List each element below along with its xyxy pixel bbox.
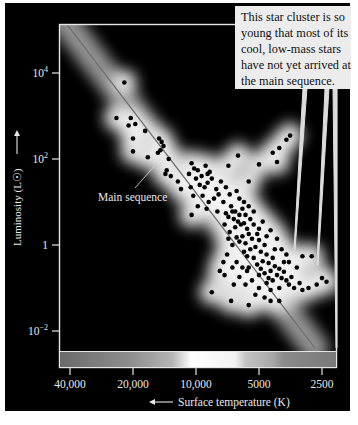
star-point xyxy=(300,254,305,259)
callout-line: cool, low-mass stars xyxy=(241,41,346,57)
star-point xyxy=(246,204,251,209)
star-point xyxy=(229,299,234,304)
star-point xyxy=(259,267,264,272)
star-point xyxy=(264,234,269,239)
star-point xyxy=(221,200,226,205)
star-point xyxy=(234,189,239,194)
star-point xyxy=(214,187,219,192)
star-point xyxy=(268,228,273,233)
star-point xyxy=(206,200,211,205)
star-point xyxy=(273,247,278,252)
star-point xyxy=(204,206,209,211)
star-point xyxy=(275,160,280,165)
star-point xyxy=(266,276,271,281)
star-point xyxy=(270,150,275,155)
star-point xyxy=(179,187,184,192)
star-point xyxy=(240,234,245,239)
main-sequence-label: Main sequence xyxy=(98,191,167,204)
star-point xyxy=(257,226,262,231)
star-point xyxy=(161,144,166,149)
star-point xyxy=(292,286,297,291)
star-point xyxy=(240,265,245,270)
star-point xyxy=(143,129,148,134)
star-point xyxy=(191,193,196,198)
star-point xyxy=(242,249,247,254)
star-point xyxy=(324,279,329,284)
star-point xyxy=(205,181,210,186)
star-point xyxy=(234,260,239,265)
star-point xyxy=(205,172,210,177)
star-point xyxy=(250,278,255,283)
star-point xyxy=(218,269,223,274)
star-point xyxy=(215,209,220,214)
star-point xyxy=(320,276,325,281)
star-point xyxy=(196,204,201,209)
star-point xyxy=(243,241,248,246)
star-point xyxy=(273,264,278,269)
star-point xyxy=(289,275,294,280)
star-point xyxy=(237,239,242,244)
star-point xyxy=(257,162,262,167)
star-point xyxy=(227,192,232,197)
star-point xyxy=(202,185,207,190)
star-point xyxy=(260,219,265,224)
star-point xyxy=(219,179,224,184)
star-point xyxy=(248,217,253,222)
star-point xyxy=(227,230,232,235)
star-point xyxy=(262,271,267,276)
star-point xyxy=(255,232,260,237)
star-point xyxy=(222,222,227,227)
star-point xyxy=(314,282,319,287)
star-point xyxy=(230,265,235,270)
star-point xyxy=(287,282,292,287)
star-point xyxy=(164,168,169,173)
star-point xyxy=(242,221,247,226)
star-point xyxy=(246,232,251,237)
star-point xyxy=(257,286,262,291)
star-point xyxy=(232,282,237,287)
star-point xyxy=(282,260,287,265)
star-point xyxy=(237,213,242,218)
star-point xyxy=(264,252,269,257)
star-point xyxy=(237,196,242,201)
star-point xyxy=(122,80,127,85)
star-point xyxy=(203,163,208,168)
star-point xyxy=(224,185,229,190)
star-point xyxy=(257,238,262,243)
callout-line: young that most of its xyxy=(241,25,346,41)
star-point xyxy=(210,176,215,181)
star-point xyxy=(268,288,273,293)
star-point xyxy=(251,222,256,227)
star-point xyxy=(226,163,231,168)
star-point xyxy=(257,273,262,278)
star-point xyxy=(268,299,273,304)
star-point xyxy=(277,146,282,151)
star-point xyxy=(245,254,250,259)
star-point xyxy=(287,260,292,265)
y-tick-label: 1 xyxy=(42,239,48,251)
star-point xyxy=(129,116,134,121)
star-point xyxy=(270,256,275,261)
star-point xyxy=(210,290,215,295)
star-point xyxy=(225,252,230,257)
star-point xyxy=(187,172,192,177)
star-point xyxy=(233,225,238,230)
star-point xyxy=(251,256,256,261)
star-point xyxy=(114,116,119,121)
star-point xyxy=(246,265,251,270)
star-point xyxy=(188,185,193,190)
star-point xyxy=(282,269,287,274)
star-point xyxy=(306,286,311,291)
star-point xyxy=(277,267,282,272)
star-point xyxy=(146,155,151,160)
star-point xyxy=(176,179,181,184)
x-axis-title: Surface temperature (K) xyxy=(178,396,290,409)
star-point xyxy=(262,295,267,300)
star-point xyxy=(284,138,289,143)
star-point xyxy=(224,211,229,216)
star-point xyxy=(245,226,250,231)
star-point xyxy=(199,174,204,179)
star-point xyxy=(212,196,217,201)
star-point xyxy=(237,275,242,280)
star-point xyxy=(242,200,247,205)
